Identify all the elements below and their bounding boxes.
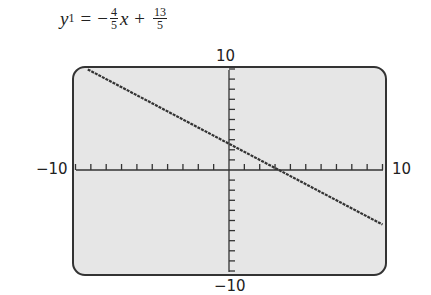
xmin-label: −10 [36, 160, 68, 178]
graph-screen [0, 0, 431, 295]
xmax-label: 10 [392, 160, 411, 178]
ymin-label: −10 [214, 277, 246, 295]
ymax-label: 10 [216, 47, 235, 65]
